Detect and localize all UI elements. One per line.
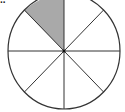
fraction-circle-diagram	[0, 0, 125, 112]
shaded-slice	[24, 0, 64, 51]
center-point	[63, 50, 66, 53]
